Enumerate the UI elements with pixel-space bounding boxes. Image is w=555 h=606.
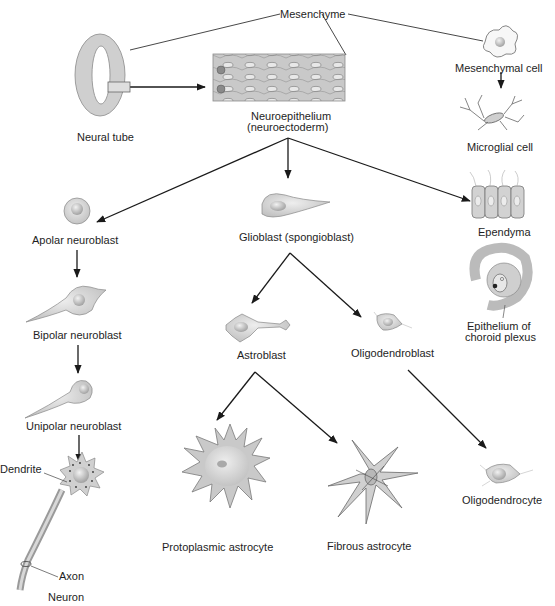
label-choroid-plexus-line2: choroid plexus (465, 331, 536, 344)
label-glioblast: Glioblast (spongioblast) (239, 231, 354, 244)
label-fibrous-astrocyte: Fibrous astrocyte (327, 540, 411, 553)
label-apolar-neuroblast: Apolar neuroblast (32, 234, 118, 247)
label-dendrite: Dendrite (0, 463, 42, 476)
label-ependyma: Ependyma (478, 226, 531, 239)
label-mesenchyme: Mesenchyme (280, 8, 345, 21)
fibrous-astrocyte-illustration (328, 440, 418, 524)
diagram-canvas: Mesenchyme Mesenchymal cell Microglial c… (0, 0, 555, 606)
neural-tube-illustration (75, 34, 130, 116)
label-oligodendroblast: Oligodendroblast (351, 347, 434, 360)
protoplasmic-astrocyte-illustration (182, 424, 270, 508)
microglial-cell-illustration (460, 95, 524, 130)
label-protoplasmic-astrocyte: Protoplasmic astrocyte (162, 541, 273, 554)
glioblast-illustration (262, 194, 330, 217)
label-neural-tube: Neural tube (77, 131, 134, 144)
oligodendrocyte-illustration (480, 464, 533, 486)
bipolar-neuroblast-illustration (26, 286, 106, 322)
label-oligodendrocyte: Oligodendrocyte (462, 494, 542, 507)
ependyma-illustration (470, 170, 524, 218)
oligodendroblast-illustration (374, 312, 412, 330)
astroblast-illustration (226, 314, 290, 342)
label-neuroepithelium-line2: (neuroectoderm) (247, 121, 328, 134)
label-bipolar-neuroblast: Bipolar neuroblast (33, 329, 122, 342)
label-unipolar-neuroblast: Unipolar neuroblast (26, 420, 121, 433)
unipolar-neuroblast-illustration (25, 380, 92, 418)
label-microglial-cell: Microglial cell (467, 141, 533, 154)
label-neuron: Neuron (48, 591, 84, 604)
neuroepithelium-illustration (213, 54, 345, 101)
mesenchymal-cell-illustration (483, 26, 517, 57)
apolar-neuroblast-illustration (64, 198, 90, 224)
diagram-artwork (0, 0, 555, 606)
label-astroblast: Astroblast (237, 349, 286, 362)
label-axon: Axon (59, 570, 84, 583)
choroid-plexus-illustration (475, 248, 528, 318)
label-mesenchymal-cell: Mesenchymal cell (455, 62, 542, 75)
